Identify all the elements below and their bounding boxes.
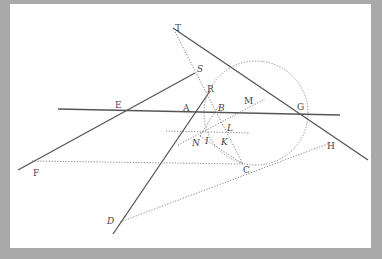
label-H: H (327, 141, 335, 151)
line-T-H (173, 28, 368, 160)
label-K: K (220, 137, 229, 147)
label-C: C (243, 165, 250, 175)
solid-lines (18, 28, 368, 234)
label-N: N (191, 138, 201, 148)
label-G: G (297, 102, 304, 112)
label-S: S (197, 64, 203, 74)
dotted-lines (32, 32, 330, 222)
label-F: F (33, 168, 39, 178)
geometry-diagram: T S R E A B M G L N I K H F C D (0, 0, 382, 259)
line-F-S (18, 73, 195, 170)
point-labels: T S R E A B M G L N I K H F C D (33, 23, 335, 226)
label-M: M (244, 96, 253, 106)
label-B: B (217, 103, 225, 113)
label-T: T (175, 23, 181, 33)
label-R: R (207, 84, 214, 94)
label-D: D (106, 216, 114, 226)
label-I: I (204, 136, 209, 146)
line-D-H (120, 143, 330, 222)
line-I-B (200, 104, 220, 136)
label-L: L (226, 123, 233, 133)
label-E: E (115, 100, 122, 110)
line-F-C (32, 161, 243, 164)
label-A: A (182, 103, 190, 113)
